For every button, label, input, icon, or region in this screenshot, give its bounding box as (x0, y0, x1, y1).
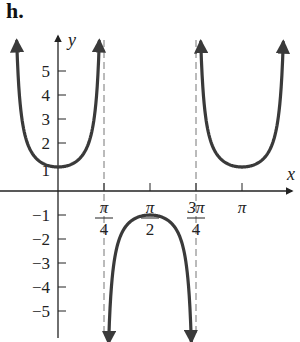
y-tick-label: −3 (32, 254, 50, 273)
curve-branch-3 (242, 42, 283, 167)
y-tick-label: 5 (42, 62, 51, 81)
curve-branch-3 (201, 42, 242, 167)
x-axis-label: x (286, 164, 295, 184)
y-axis-label: y (66, 30, 76, 50)
y-tick-label: −2 (32, 230, 50, 249)
x-tick-numerator: 3π (186, 198, 205, 217)
x-tick-denominator: 4 (100, 220, 109, 239)
y-tick-label: 2 (42, 134, 51, 153)
x-tick-denominator: 2 (146, 220, 155, 239)
curve-branch-1 (17, 41, 58, 167)
y-tick-label: −4 (32, 278, 51, 297)
curve-branch-2 (109, 215, 150, 342)
x-tick-numerator: π (238, 198, 247, 217)
x-tick-numerator: π (100, 198, 109, 217)
x-tick-denominator: 4 (192, 220, 201, 239)
curve-branch-1 (58, 41, 99, 167)
y-tick-label: −5 (32, 302, 50, 321)
graph: 12345−1−2−3−4−5 π4π23π4π y x (0, 0, 300, 342)
y-tick-label: 4 (42, 86, 51, 105)
curve-branch-2 (150, 215, 191, 341)
y-tick-label: −1 (32, 206, 50, 225)
y-tick-label: 3 (42, 110, 51, 129)
